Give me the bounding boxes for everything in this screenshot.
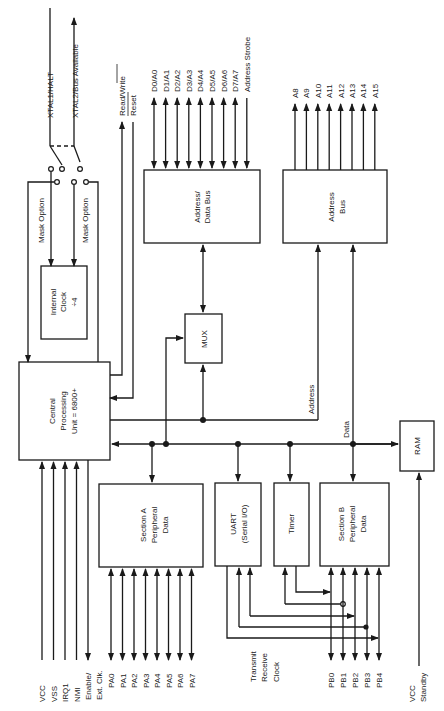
clock-label-2: Clock [59,291,68,312]
data-line-label: D1/A1 [162,69,171,92]
data-line-label: D6/A6 [220,69,229,92]
port-a-label: PA4 [153,673,162,688]
timer-label: Timer [287,514,296,534]
adb-label-2: Data Bus [203,191,212,224]
uart-label-2: (Serial I/O) [240,504,249,543]
section-b-block: Section B Peripheral Data [320,483,389,566]
address-strobe-label: Address Strobe [243,36,252,92]
address-line-label: A15 [371,83,380,98]
port-a-label: PA1 [119,673,128,688]
cpu-input-label: VSS [50,686,59,702]
sb-label-1: Section B [337,507,346,541]
sb-label-3: Data [359,515,368,532]
clock-label-1: Internal [49,288,58,315]
port-a-label: PA2 [130,673,139,688]
port-b-lines: PB0PB1PB2PB3PB4 [327,568,384,688]
data-label: Data [342,421,351,438]
uart-label-1: UART [229,513,238,535]
data-line-label: D0/A0 [150,69,159,92]
mux-label: MUX [200,329,209,347]
timer-block: Timer [274,483,309,566]
ram-label: RAM [413,437,422,455]
junction-dot [200,417,206,423]
data-line-label: D5/A5 [208,69,217,92]
data-line-label: D7/A7 [231,69,240,92]
port-a-label: PA0 [107,673,116,688]
address-line-label: A13 [348,83,357,98]
enable-label-2: Ext. Clk. [95,670,104,700]
mask-option-2-label: Mask Option [81,198,90,243]
adb-label-1: Address/ [193,190,202,222]
xtal1-label: XTAL1/HALT [46,72,55,118]
ab-label-2: Bus [338,200,347,214]
port-b-label: PB2 [351,672,360,688]
sa-label-1: Section A [139,507,148,541]
address-line-label: A8 [291,88,300,98]
reset-label: Reset [129,94,138,116]
address-bus-block: Address Bus [283,170,387,243]
port-b-label: PB0 [327,672,336,688]
cpu-block: Central Processing Unit = 6800+ [19,362,110,460]
xtal2-label: XTAL2/Bus Available [71,43,80,118]
address-line-label: A9 [302,88,311,98]
address-line-label: A12 [337,83,346,98]
receive-label: Receive [260,653,269,682]
port-b-label: PB1 [339,672,348,688]
cpu-input-label: NMI [73,687,82,702]
sa-label-2: Peripheral [150,507,159,544]
address-label: Address [307,385,316,414]
vcc-standby-label-2: Standby [419,673,428,702]
ram-block: RAM [400,421,434,471]
port-a-label: PA5 [165,673,174,688]
uart-block: UART (Serial I/O) [215,483,261,566]
cpu-input-label: VCC [38,685,47,702]
sb-label-2: Peripheral [348,506,357,543]
data-line-label: D4/A4 [196,69,205,92]
address-line-label: A10 [314,83,323,98]
port-a-label: PA3 [142,673,151,688]
data-address-lines: D0/A0D1/A1D2/A2D3/A3D4/A4D5/A5D6/A6D7/A7… [150,36,252,168]
mux-block: MUX [185,314,222,363]
port-a-lines: PA0PA1PA2PA3PA4PA5PA6PA7 [107,569,197,688]
address-data-bus-block: Address/ Data Bus [144,170,260,243]
mask-option-1-label: Mask Option [37,198,46,243]
port-a-label: PA7 [188,673,197,688]
data-to-mux [166,338,183,444]
vcc-standby-label-1: VCC [408,685,417,702]
data-line-label: D2/A2 [173,69,182,92]
junction-dot [163,441,169,447]
clock-label-3: ÷4 [70,297,79,306]
enable-label-1: Enable/ [84,672,93,700]
high-address-lines: A8A9A10A11A12A13A14A15 [291,83,380,170]
sa-label-3: Data [161,516,170,533]
ab-label-1: Address [327,192,336,221]
cpu-label-3: Unit = 6800+ [70,388,79,434]
read-write-label: Read/Write [118,76,127,116]
cpu-input-label: IRQ1 [61,683,70,702]
mcu-block-diagram: Central Processing Unit = 6800+ Internal… [0,0,444,711]
port-b-label: PB4 [375,672,384,688]
cpu-label-2: Processing [59,391,68,431]
data-line-label: D3/A3 [185,69,194,92]
read-write-line [110,122,122,375]
address-line-label: A14 [359,83,368,98]
transmit-label: Transmit [249,650,258,682]
clock-signal-label: Clock [272,661,281,682]
cpu-input-lines: VCCVSSIRQ1NMI [38,460,88,702]
port-b-label: PB3 [363,672,372,688]
port-a-label: PA6 [176,673,185,688]
cpu-label-1: Central [48,398,57,424]
address-line-label: A11 [325,84,334,98]
section-a-block: Section A Peripheral Data [99,484,203,567]
internal-clock-block: Internal Clock ÷4 [41,266,87,339]
